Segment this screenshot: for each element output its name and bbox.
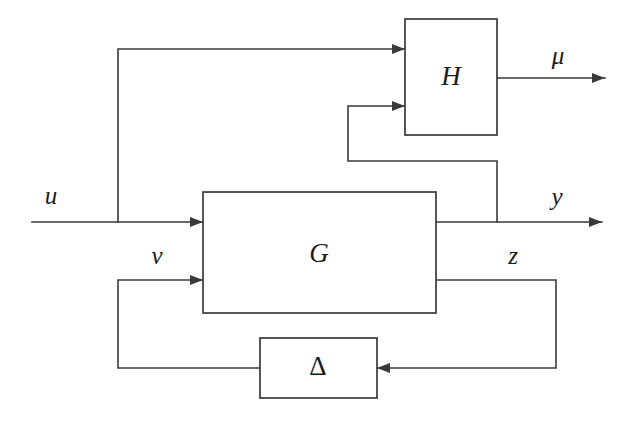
arrowhead-nu-into-G-icon bbox=[190, 275, 203, 285]
block-delta[interactable]: Δ bbox=[260, 338, 377, 398]
block-H[interactable]: H bbox=[405, 19, 497, 135]
block-delta-label: Δ bbox=[309, 351, 326, 381]
block-diagram-svg: H G Δ u ν μ y z bbox=[0, 0, 634, 421]
arrowhead-y-out-icon bbox=[589, 217, 602, 227]
arrowhead-z-into-delta-icon bbox=[377, 363, 390, 373]
block-diagram-canvas: H G Δ u ν μ y z bbox=[0, 0, 634, 421]
block-G[interactable]: G bbox=[203, 192, 436, 313]
arrowhead-u-into-G-icon bbox=[190, 217, 203, 227]
arrowhead-mu-out-icon bbox=[592, 73, 605, 83]
signal-label-z: z bbox=[507, 242, 518, 269]
signal-label-u: u bbox=[45, 182, 58, 209]
signal-label-nu: ν bbox=[151, 242, 163, 269]
block-layer: H G Δ bbox=[203, 19, 497, 398]
arrowhead-y-into-H-icon bbox=[392, 101, 405, 111]
arrowhead-u-into-H-icon bbox=[392, 44, 405, 54]
block-H-label: H bbox=[440, 61, 462, 91]
signal-label-mu: μ bbox=[551, 42, 565, 69]
signal-label-y: y bbox=[548, 183, 563, 210]
block-G-label: G bbox=[309, 238, 329, 268]
